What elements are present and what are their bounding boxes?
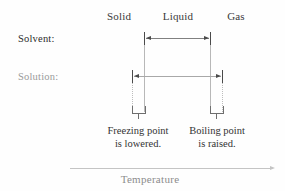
solvent-range-right-tick bbox=[210, 32, 211, 45]
phase-label-solid: Solid bbox=[103, 10, 135, 22]
boiling-caption-line1: Boiling point bbox=[165, 124, 269, 137]
phase-transition-diagram: Solid Liquid Gas Solvent: Solution: Free… bbox=[0, 0, 285, 191]
temperature-axis-line bbox=[70, 168, 270, 169]
solution-range-line bbox=[134, 76, 221, 77]
boiling-caption: Boiling point is raised. bbox=[165, 124, 269, 150]
solvent-range-left-tick bbox=[144, 32, 145, 45]
solvent-range-line bbox=[146, 38, 209, 39]
solution-range-right-tick bbox=[222, 70, 223, 83]
phase-label-liquid: Liquid bbox=[158, 10, 198, 22]
phase-label-gas: Gas bbox=[222, 10, 250, 22]
solvent-range-right-arrowhead bbox=[204, 36, 209, 40]
row-label-solvent: Solvent: bbox=[18, 33, 55, 44]
row-label-solution: Solution: bbox=[18, 71, 58, 82]
boiling-point-bracket bbox=[210, 106, 224, 114]
boiling-caption-line2: is raised. bbox=[165, 137, 269, 150]
solution-range-left-tick bbox=[132, 70, 133, 83]
temperature-axis-label: Temperature bbox=[110, 173, 190, 185]
freezing-point-bracket-stem bbox=[138, 113, 139, 119]
solution-range-right-arrowhead bbox=[216, 74, 221, 78]
boiling-point-bracket-stem bbox=[216, 113, 217, 119]
solvent-range-left-arrowhead bbox=[146, 36, 151, 40]
freezing-point-bracket bbox=[132, 106, 146, 114]
solution-range-left-arrowhead bbox=[134, 74, 139, 78]
temperature-axis-arrowhead bbox=[270, 166, 275, 170]
